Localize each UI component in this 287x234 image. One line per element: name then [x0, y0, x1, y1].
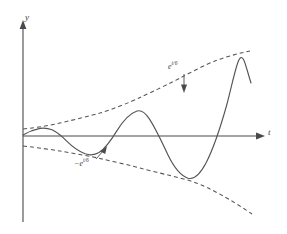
upper-envelope-curve: [23, 51, 250, 129]
upper-envelope-pointer-head: [181, 85, 187, 94]
t-axis-arrowhead: [256, 133, 265, 140]
t-axis: [23, 133, 265, 140]
lower-envelope-label: −et/6: [74, 160, 89, 168]
lower-envelope-curve: [23, 146, 252, 214]
lower-envelope-pointer: [96, 146, 107, 159]
upper-envelope-label: et/6: [168, 63, 177, 71]
lower-envelope-label-exponent: t/6: [83, 157, 89, 163]
y-axis-label: y: [25, 13, 29, 22]
lower-envelope-label-base: −e: [74, 159, 83, 168]
solution-curve: [23, 57, 251, 178]
t-axis-label: t: [268, 128, 271, 137]
plot-canvas: [0, 0, 287, 234]
y-axis: [20, 20, 27, 222]
upper-envelope-label-exponent: t/6: [172, 60, 178, 66]
figure-container: y t et/6 −et/6: [0, 0, 287, 234]
